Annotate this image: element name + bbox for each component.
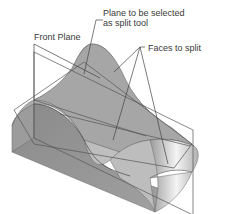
callout-faces-to-split: Faces to split (148, 43, 201, 53)
callout-split-tool-plane: Plane to be selected as split tool (103, 8, 185, 28)
callout-front-plane: Front Plane (34, 32, 81, 42)
right-end-face (150, 139, 198, 212)
callout-split-tool-line2: as split tool (103, 18, 185, 28)
callout-split-tool-line1: Plane to be selected (103, 8, 185, 18)
